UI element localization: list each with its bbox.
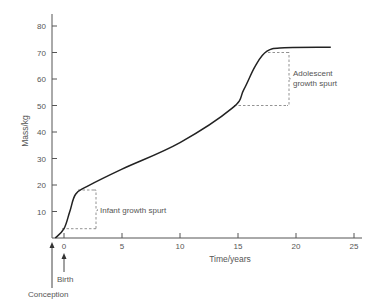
x-tick-label: 25: [350, 242, 359, 251]
mass-curve: [55, 47, 331, 238]
y-tick-label: 10: [37, 208, 46, 217]
conception-arrow: [50, 242, 55, 288]
y-tick-label: 40: [37, 128, 46, 137]
infant-growth-label: Infant growth spurt: [100, 206, 167, 215]
x-axis: 0510152025: [52, 233, 362, 251]
adolescent-growth-label-line2: growth spurt: [293, 79, 338, 88]
x-tick-label: 10: [176, 242, 185, 251]
adolescent-growth-guides: [234, 53, 287, 106]
infant-bracket: [94, 190, 98, 229]
x-tick-label: 20: [292, 242, 301, 251]
x-tick-label: 5: [120, 242, 125, 251]
y-tick-label: 70: [37, 49, 46, 58]
y-axis: 1020304050607080: [37, 14, 57, 238]
growth-chart: 1020304050607080 0510152025 Mass/kg Time…: [0, 0, 378, 305]
adolescent-growth-label-line1: Adolescent: [293, 69, 333, 78]
y-tick-label: 60: [37, 75, 46, 84]
y-tick-label: 80: [37, 22, 46, 31]
y-tick-label: 20: [37, 181, 46, 190]
birth-arrow: [62, 253, 67, 272]
y-tick-label: 50: [37, 102, 46, 111]
y-axis-label: Mass/kg: [20, 115, 30, 147]
y-tick-label: 30: [37, 155, 46, 164]
birth-label: Birth: [57, 275, 73, 284]
x-axis-label: Time/years: [209, 254, 251, 264]
x-tick-label: 15: [234, 242, 243, 251]
adolescent-bracket: [287, 53, 291, 106]
x-tick-label: 0: [62, 242, 67, 251]
conception-label: Conception: [28, 290, 68, 299]
